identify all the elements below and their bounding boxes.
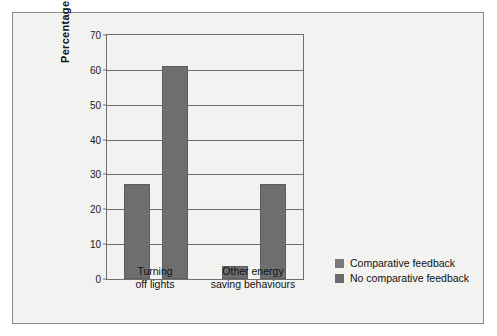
y-axis-tick-mark-20 bbox=[103, 209, 107, 210]
gridline-y-50 bbox=[107, 105, 303, 106]
y-axis-tick-mark-30 bbox=[103, 174, 107, 175]
x-axis-category-label-1: Other energy saving behaviours bbox=[183, 265, 323, 291]
plot-area: 010203040506070 bbox=[106, 34, 304, 280]
legend-item-no-comparative-feedback: No comparative feedback bbox=[335, 272, 469, 284]
bar-0-1 bbox=[162, 66, 188, 279]
y-axis-tick-label-70: 70 bbox=[90, 30, 101, 41]
y-axis-title: Percentage improvement bbox=[59, 0, 71, 63]
y-axis-tick-label-10: 10 bbox=[90, 239, 101, 250]
legend-swatch-icon-0 bbox=[335, 259, 344, 268]
gridline-y-40 bbox=[107, 140, 303, 141]
y-axis-tick-label-50: 50 bbox=[90, 99, 101, 110]
legend-label-0: Comparative feedback bbox=[350, 257, 455, 269]
y-axis-tick-mark-50 bbox=[103, 104, 107, 105]
y-axis-tick-label-30: 30 bbox=[90, 169, 101, 180]
y-axis-tick-label-40: 40 bbox=[90, 134, 101, 145]
y-axis-tick-label-60: 60 bbox=[90, 64, 101, 75]
y-axis-tick-mark-70 bbox=[103, 35, 107, 36]
chart-figure-frame: Percentage improvement 010203040506070 T… bbox=[12, 12, 484, 324]
legend-item-comparative-feedback: Comparative feedback bbox=[335, 257, 469, 269]
chart-legend: Comparative feedback No comparative feed… bbox=[335, 257, 469, 287]
x-axis-category-label-1-line-1: saving behaviours bbox=[183, 278, 323, 291]
legend-swatch-icon-1 bbox=[335, 274, 344, 283]
y-axis-tick-label-20: 20 bbox=[90, 204, 101, 215]
x-axis-category-label-1-line-0: Other energy bbox=[183, 265, 323, 278]
y-axis-tick-mark-10 bbox=[103, 244, 107, 245]
legend-label-1: No comparative feedback bbox=[350, 272, 469, 284]
gridline-y-60 bbox=[107, 70, 303, 71]
gridline-y-30 bbox=[107, 174, 303, 175]
y-axis-tick-mark-60 bbox=[103, 69, 107, 70]
y-axis-tick-mark-40 bbox=[103, 139, 107, 140]
